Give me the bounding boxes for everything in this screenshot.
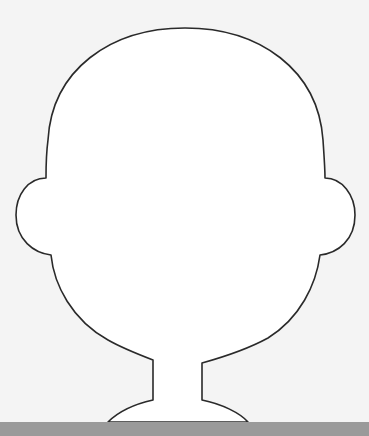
head-silhouette-outline (16, 28, 355, 422)
bottom-gray-bar (0, 422, 369, 436)
page-background (0, 0, 369, 436)
head-outline-figure (0, 0, 369, 436)
